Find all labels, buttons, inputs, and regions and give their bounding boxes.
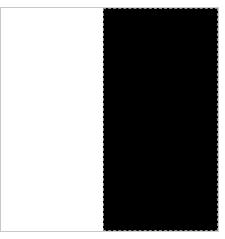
canvas: [0, 0, 225, 239]
black-swatch-selected[interactable]: [103, 8, 218, 231]
white-swatch[interactable]: [1, 8, 103, 231]
color-swatch-frame: [0, 7, 219, 232]
